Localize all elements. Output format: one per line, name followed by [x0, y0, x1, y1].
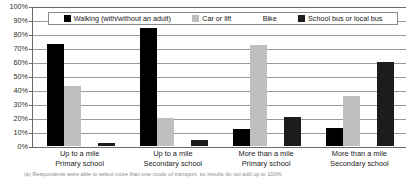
bar-bike[interactable]	[174, 145, 191, 146]
y-tick-mark	[29, 105, 33, 106]
legend-label: School bus or local bus	[308, 15, 382, 22]
bar-bike[interactable]	[81, 145, 98, 146]
x-axis-group-label: More than a milePrimary school	[220, 149, 313, 168]
bar-bus[interactable]	[191, 140, 208, 146]
bar-group	[127, 7, 220, 146]
chart-legend: Walking (with/without an adult)Car or li…	[48, 12, 398, 25]
bar-car[interactable]	[250, 45, 267, 146]
plot-area: 100%90%80%70%60%50%40%30%20%10%0% Walkin…	[32, 7, 406, 148]
bar-bike[interactable]	[360, 145, 377, 146]
y-tick-label: 70%	[14, 45, 28, 52]
bar-walking[interactable]	[140, 28, 157, 146]
y-tick-mark	[29, 77, 33, 78]
bar-bus[interactable]	[377, 62, 394, 146]
y-tick-label: 30%	[14, 101, 28, 108]
chart-footnote: (a) Respondents were able to select more…	[24, 171, 400, 178]
legend-swatch-bus-icon	[298, 15, 305, 22]
x-label-line2: Secondary school	[313, 159, 406, 169]
bar-bus[interactable]	[284, 117, 301, 146]
y-tick-mark	[29, 7, 33, 8]
legend-entry-bus[interactable]: School bus or local bus	[298, 15, 382, 22]
x-label-line1: More than a mile	[239, 149, 294, 158]
bar-bike[interactable]	[267, 145, 284, 146]
legend-label: Car or lift	[202, 15, 231, 22]
y-tick-label: 10%	[14, 129, 28, 136]
bar-group	[313, 7, 406, 146]
bar-walking[interactable]	[233, 129, 250, 146]
legend-swatch-car-icon	[192, 15, 199, 22]
bar-chart-figure: 100%90%80%70%60%50%40%30%20%10%0% Walkin…	[0, 0, 410, 182]
x-axis-group-label: Up to a mileSecondary school	[126, 149, 219, 168]
x-axis-group-label: More than a mileSecondary school	[313, 149, 406, 168]
legend-entry-car[interactable]: Car or lift	[192, 15, 231, 22]
legend-swatch-walking-icon	[64, 15, 71, 22]
y-tick-mark	[29, 119, 33, 120]
legend-label: Bike	[263, 15, 277, 22]
x-label-line1: More than a mile	[332, 149, 387, 158]
x-label-line2: Primary school	[33, 159, 126, 169]
x-label-line2: Primary school	[220, 159, 313, 169]
y-tick-mark	[29, 49, 33, 50]
bars-layer	[34, 7, 406, 146]
bar-group	[34, 7, 127, 146]
x-axis-group-label: Up to a milePrimary school	[33, 149, 126, 168]
bar-walking[interactable]	[47, 44, 64, 146]
x-label-line1: Up to a mile	[60, 149, 99, 158]
y-tick-mark	[29, 91, 33, 92]
x-label-line2: Secondary school	[126, 159, 219, 169]
y-tick-label: 50%	[14, 73, 28, 80]
legend-label: Walking (with/without an adult)	[74, 15, 171, 22]
y-tick-label: 100%	[10, 3, 28, 10]
y-tick-label: 20%	[14, 115, 28, 122]
bar-car[interactable]	[343, 96, 360, 146]
legend-entry-bike[interactable]: Bike	[253, 15, 277, 22]
y-tick-mark	[29, 35, 33, 36]
bar-car[interactable]	[157, 118, 174, 146]
x-label-line1: Up to a mile	[153, 149, 192, 158]
y-tick-mark	[29, 133, 33, 134]
legend-swatch-bike-icon	[253, 15, 260, 22]
y-tick-label: 40%	[14, 87, 28, 94]
legend-entry-walking[interactable]: Walking (with/without an adult)	[64, 15, 171, 22]
bar-group	[220, 7, 313, 146]
y-tick-label: 80%	[14, 31, 28, 38]
y-tick-label: 60%	[14, 59, 28, 66]
y-tick-mark	[29, 147, 33, 148]
y-tick-label: 0%	[18, 143, 28, 150]
bar-car[interactable]	[64, 86, 81, 146]
bar-walking[interactable]	[326, 128, 343, 146]
y-tick-mark	[29, 21, 33, 22]
y-tick-label: 90%	[14, 17, 28, 24]
y-tick-mark	[29, 63, 33, 64]
x-axis-labels: Up to a milePrimary schoolUp to a mileSe…	[33, 149, 406, 168]
bar-bus[interactable]	[98, 143, 115, 146]
